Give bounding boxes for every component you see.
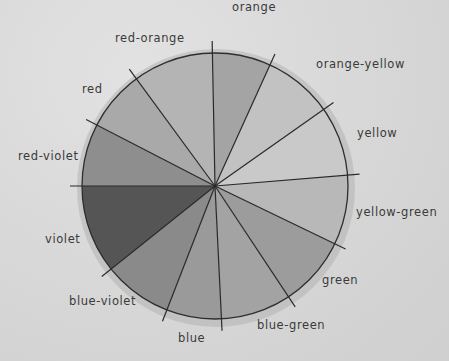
label-orange: orange xyxy=(232,2,276,14)
label-blue-violet: blue-violet xyxy=(69,296,136,308)
color-wheel-diagram: orangeorange-yellowyellowyellow-greengre… xyxy=(0,0,449,361)
label-green: green xyxy=(322,275,358,287)
label-red: red xyxy=(82,84,103,96)
label-blue-green: blue-green xyxy=(257,320,325,332)
label-yellow-green: yellow-green xyxy=(356,207,437,219)
label-red-violet: red-violet xyxy=(18,151,79,163)
label-yellow: yellow xyxy=(357,128,397,140)
label-blue: blue xyxy=(178,333,205,345)
label-red-orange: red-orange xyxy=(115,33,185,45)
label-violet: violet xyxy=(45,234,80,246)
color-wheel xyxy=(0,0,449,361)
label-orange-yellow: orange-yellow xyxy=(316,59,405,71)
